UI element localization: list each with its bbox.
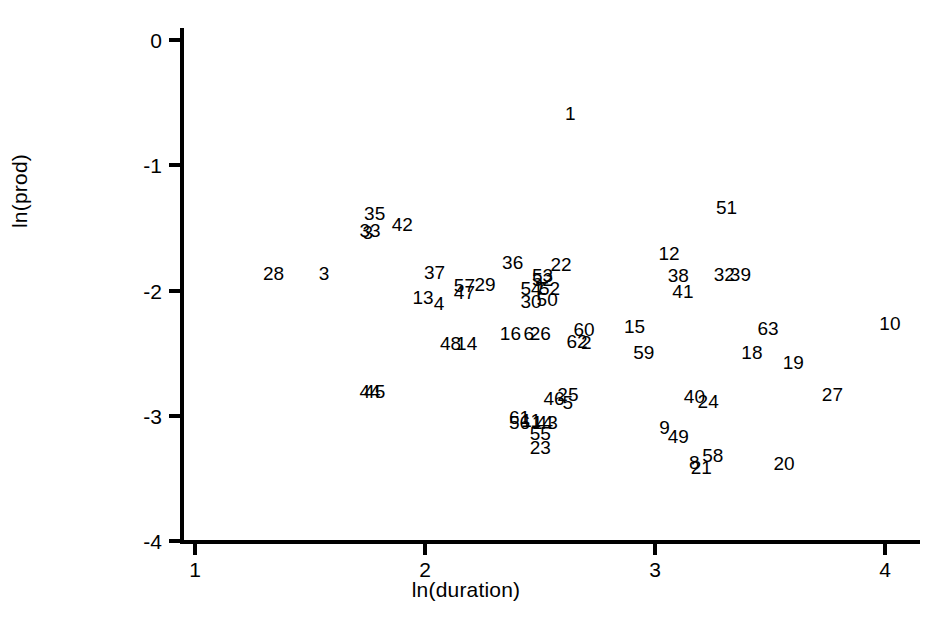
data-point-label: 29 bbox=[475, 275, 496, 294]
data-point-label: 59 bbox=[633, 342, 654, 361]
plot-data-area: 1513542333123622283373832395352572954752… bbox=[180, 28, 920, 543]
x-tick-label: 2 bbox=[419, 559, 431, 580]
data-point-label: 14 bbox=[456, 334, 477, 353]
x-axis-title: ln(duration) bbox=[0, 578, 932, 602]
y-tick-label: 0 bbox=[150, 30, 162, 51]
data-point-label: 42 bbox=[392, 215, 413, 234]
data-point-label: 23 bbox=[530, 438, 551, 457]
data-point-label: 10 bbox=[879, 314, 900, 333]
y-tick: -1 bbox=[169, 163, 180, 167]
y-axis-title: ln(prod) bbox=[8, 154, 32, 228]
y-tick-label: -2 bbox=[143, 280, 162, 301]
y-tick: 0 bbox=[169, 38, 180, 42]
data-point-label: 26 bbox=[530, 324, 551, 343]
data-point-label: 3 bbox=[363, 222, 374, 241]
y-tick-label: -3 bbox=[143, 405, 162, 426]
data-point-label: 49 bbox=[668, 426, 689, 445]
data-point-label: 28 bbox=[263, 263, 284, 282]
y-tick: -4 bbox=[169, 539, 180, 543]
data-point-label: 50 bbox=[537, 290, 558, 309]
data-point-label: 15 bbox=[624, 316, 645, 335]
data-point-label: 3 bbox=[319, 263, 330, 282]
data-point-label: 20 bbox=[774, 454, 795, 473]
data-point-label: 12 bbox=[659, 243, 680, 262]
x-tick: 1 bbox=[193, 544, 197, 555]
y-tick-label: -4 bbox=[143, 531, 162, 552]
data-point-label: 13 bbox=[412, 287, 433, 306]
data-point-label: 36 bbox=[502, 252, 523, 271]
y-tick-label: -1 bbox=[143, 155, 162, 176]
data-point-label: 5 bbox=[563, 392, 574, 411]
data-point-label: 47 bbox=[454, 282, 475, 301]
data-point-label: 4 bbox=[434, 294, 445, 313]
data-point-label: 51 bbox=[716, 197, 737, 216]
data-point-label: 63 bbox=[757, 319, 778, 338]
data-point-label: 46 bbox=[544, 389, 565, 408]
data-point-label: 24 bbox=[698, 391, 719, 410]
data-point-label: 22 bbox=[550, 255, 571, 274]
data-point-label: 16 bbox=[500, 324, 521, 343]
y-tick: -3 bbox=[169, 414, 180, 418]
data-point-label: 21 bbox=[691, 458, 712, 477]
y-tick: -2 bbox=[169, 289, 180, 293]
data-point-label: 1 bbox=[565, 103, 576, 122]
x-tick: 4 bbox=[883, 544, 887, 555]
scatter-plot-figure: 0-1-2-3-4 1234 1513542333123622283373832… bbox=[0, 0, 932, 621]
x-tick: 2 bbox=[423, 544, 427, 555]
data-point-label: 39 bbox=[730, 265, 751, 284]
data-point-label: 45 bbox=[364, 381, 385, 400]
x-tick-label: 1 bbox=[189, 559, 201, 580]
data-point-label: 2 bbox=[581, 332, 592, 351]
data-point-label: 56 bbox=[509, 413, 530, 432]
data-point-label: 18 bbox=[741, 342, 762, 361]
x-tick-label: 4 bbox=[879, 559, 891, 580]
data-point-label: 27 bbox=[822, 385, 843, 404]
data-point-label: 37 bbox=[424, 262, 445, 281]
x-tick: 3 bbox=[653, 544, 657, 555]
x-tick-label: 3 bbox=[649, 559, 661, 580]
data-point-label: 19 bbox=[783, 352, 804, 371]
data-point-label: 41 bbox=[672, 281, 693, 300]
